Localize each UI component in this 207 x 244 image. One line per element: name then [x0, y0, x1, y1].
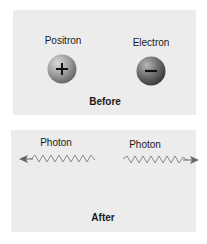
- before-panel: Positron Electron: [13, 10, 196, 115]
- wave-arrow-right-icon: [119, 153, 199, 167]
- wave-arrow-left-icon: [19, 152, 99, 166]
- minus-icon: [136, 56, 166, 86]
- positron-label: Positron: [45, 35, 82, 46]
- after-caption: After: [91, 212, 114, 223]
- positron-particle: [47, 54, 77, 84]
- electron-particle: [136, 56, 166, 86]
- electron-label: Electron: [133, 37, 170, 48]
- photon-right-label: Photon: [129, 139, 161, 150]
- after-panel: Photon Photon After: [11, 130, 196, 232]
- before-caption: Before: [89, 96, 121, 107]
- plus-icon: [47, 54, 77, 84]
- photon-left-label: Photon: [40, 137, 72, 148]
